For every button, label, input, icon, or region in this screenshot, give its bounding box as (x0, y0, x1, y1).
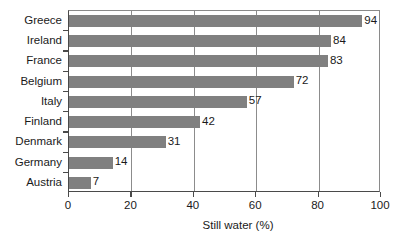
bar-value-label: 7 (93, 174, 99, 189)
y-axis-tick (63, 172, 68, 173)
x-axis-tick (255, 192, 256, 197)
category-label-france: France (26, 53, 62, 67)
y-axis-tick (63, 30, 68, 31)
x-axis-tick (68, 192, 69, 197)
bar-row (69, 173, 379, 193)
y-axis-tick (63, 50, 68, 51)
bar[interactable] (69, 177, 91, 189)
category-label-finland: Finland (24, 114, 62, 128)
bar-value-label: 72 (296, 73, 309, 88)
bar[interactable] (69, 157, 113, 169)
bar[interactable] (69, 76, 294, 88)
bar-row (69, 92, 379, 112)
y-axis-tick (63, 71, 68, 72)
bar-row (69, 132, 379, 152)
x-axis-tick (130, 192, 131, 197)
bar[interactable] (69, 15, 362, 27)
x-axis-tick-label: 100 (370, 198, 389, 212)
bar-value-label: 83 (330, 53, 343, 68)
x-axis-tick (380, 192, 381, 197)
category-label-germany: Germany (15, 155, 62, 169)
x-axis-tick-label: 0 (65, 198, 71, 212)
bar[interactable] (69, 136, 166, 148)
bar-row (69, 11, 379, 31)
bar-value-label: 84 (333, 33, 346, 48)
bar[interactable] (69, 35, 331, 47)
category-label-austria: Austria (26, 175, 62, 189)
x-axis-tick-label: 80 (311, 198, 324, 212)
bar-value-label: 14 (115, 154, 128, 169)
x-axis-tick-label: 40 (186, 198, 199, 212)
category-label-ireland: Ireland (27, 33, 62, 47)
bar-value-label: 57 (249, 93, 262, 108)
y-axis-tick (63, 91, 68, 92)
bar[interactable] (69, 116, 200, 128)
x-axis-tick (318, 192, 319, 197)
bar-value-label: 31 (168, 134, 181, 149)
bar-value-label: 94 (364, 13, 377, 28)
x-axis-tick-label: 60 (249, 198, 262, 212)
bar-chart: Still water (%) 94Greece84Ireland83Franc… (0, 0, 408, 240)
x-axis-tick (193, 192, 194, 197)
bar-row (69, 112, 379, 132)
y-axis-tick (63, 131, 68, 132)
category-label-belgium: Belgium (20, 74, 62, 88)
y-axis-tick (63, 152, 68, 153)
x-axis-title: Still water (%) (0, 218, 408, 232)
bar-row (69, 72, 379, 92)
x-axis-tick-label: 20 (124, 198, 137, 212)
bar-value-label: 42 (202, 114, 215, 129)
category-label-denmark: Denmark (15, 134, 62, 148)
y-axis-tick (63, 111, 68, 112)
bar[interactable] (69, 55, 328, 67)
category-label-italy: Italy (41, 94, 62, 108)
bar[interactable] (69, 96, 247, 108)
category-label-greece: Greece (24, 13, 62, 27)
